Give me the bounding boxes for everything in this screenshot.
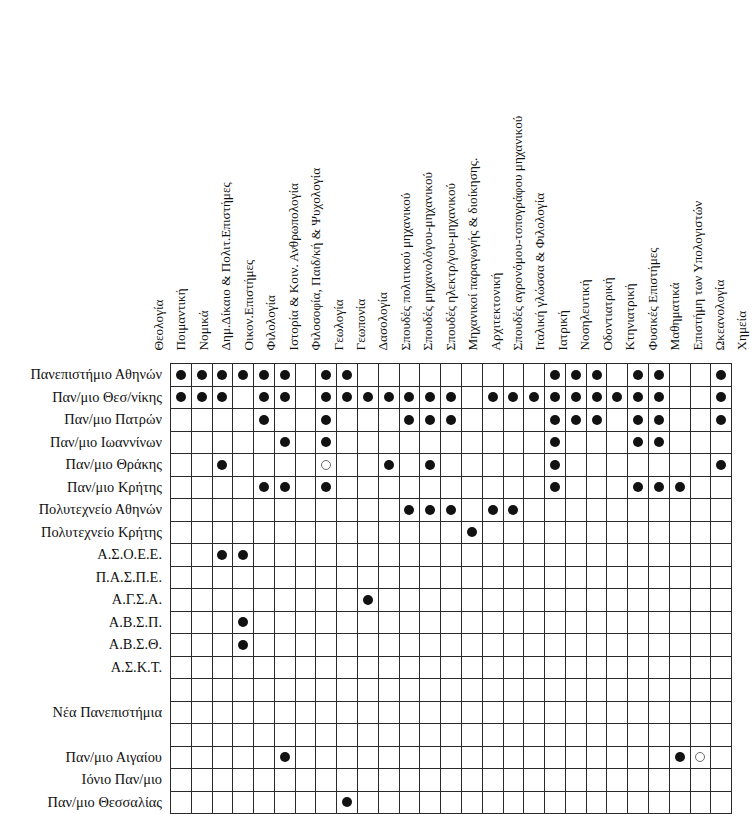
matrix-cell[interactable]: [275, 657, 296, 680]
matrix-cell[interactable]: [545, 769, 566, 792]
matrix-cell[interactable]: [441, 792, 462, 814]
matrix-cell[interactable]: [504, 657, 525, 680]
matrix-cell[interactable]: [337, 724, 358, 747]
matrix-cell[interactable]: [213, 432, 234, 455]
matrix-cell[interactable]: [504, 724, 525, 747]
matrix-cell[interactable]: [192, 477, 213, 500]
matrix-cell[interactable]: [504, 769, 525, 792]
matrix-cell[interactable]: [524, 634, 545, 657]
matrix-cell[interactable]: [545, 724, 566, 747]
matrix-cell[interactable]: [628, 724, 649, 747]
matrix-cell[interactable]: [296, 499, 317, 522]
matrix-cell[interactable]: [607, 657, 628, 680]
matrix-cell[interactable]: [587, 387, 608, 410]
matrix-cell[interactable]: [607, 679, 628, 702]
matrix-cell[interactable]: [233, 567, 254, 590]
matrix-cell[interactable]: [379, 567, 400, 590]
matrix-cell[interactable]: [711, 702, 732, 725]
matrix-cell[interactable]: [483, 792, 504, 814]
matrix-cell[interactable]: [691, 612, 712, 635]
matrix-cell[interactable]: [337, 364, 358, 387]
matrix-cell[interactable]: [213, 634, 234, 657]
matrix-cell[interactable]: [233, 544, 254, 567]
matrix-cell[interactable]: [462, 499, 483, 522]
matrix-cell[interactable]: [254, 589, 275, 612]
matrix-cell[interactable]: [379, 589, 400, 612]
matrix-cell[interactable]: [483, 567, 504, 590]
matrix-cell[interactable]: [483, 522, 504, 545]
matrix-cell[interactable]: [171, 477, 192, 500]
matrix-cell[interactable]: [213, 747, 234, 770]
matrix-cell[interactable]: [504, 522, 525, 545]
matrix-cell[interactable]: [213, 724, 234, 747]
matrix-cell[interactable]: [670, 747, 691, 770]
matrix-cell[interactable]: [316, 477, 337, 500]
matrix-cell[interactable]: [337, 522, 358, 545]
matrix-cell[interactable]: [462, 769, 483, 792]
matrix-cell[interactable]: [420, 364, 441, 387]
matrix-cell[interactable]: [691, 634, 712, 657]
matrix-cell[interactable]: [524, 792, 545, 814]
matrix-cell[interactable]: [670, 702, 691, 725]
matrix-cell[interactable]: [379, 454, 400, 477]
matrix-cell[interactable]: [296, 364, 317, 387]
matrix-cell[interactable]: [296, 522, 317, 545]
matrix-cell[interactable]: [483, 657, 504, 680]
matrix-cell[interactable]: [192, 544, 213, 567]
matrix-cell[interactable]: [192, 409, 213, 432]
matrix-cell[interactable]: [192, 657, 213, 680]
matrix-cell[interactable]: [254, 679, 275, 702]
matrix-cell[interactable]: [607, 769, 628, 792]
matrix-cell[interactable]: [379, 612, 400, 635]
matrix-cell[interactable]: [441, 387, 462, 410]
matrix-cell[interactable]: [171, 657, 192, 680]
matrix-cell[interactable]: [649, 364, 670, 387]
matrix-cell[interactable]: [670, 567, 691, 590]
matrix-cell[interactable]: [524, 657, 545, 680]
matrix-cell[interactable]: [171, 522, 192, 545]
matrix-cell[interactable]: [337, 477, 358, 500]
matrix-cell[interactable]: [379, 702, 400, 725]
matrix-cell[interactable]: [254, 387, 275, 410]
matrix-cell[interactable]: [711, 477, 732, 500]
matrix-cell[interactable]: [566, 454, 587, 477]
matrix-cell[interactable]: [566, 364, 587, 387]
matrix-cell[interactable]: [275, 634, 296, 657]
matrix-cell[interactable]: [316, 454, 337, 477]
matrix-cell[interactable]: [504, 567, 525, 590]
matrix-cell[interactable]: [587, 634, 608, 657]
matrix-cell[interactable]: [192, 499, 213, 522]
matrix-cell[interactable]: [192, 792, 213, 814]
matrix-cell[interactable]: [545, 612, 566, 635]
matrix-cell[interactable]: [400, 454, 421, 477]
matrix-cell[interactable]: [587, 589, 608, 612]
matrix-cell[interactable]: [337, 747, 358, 770]
matrix-cell[interactable]: [566, 679, 587, 702]
matrix-cell[interactable]: [275, 409, 296, 432]
matrix-cell[interactable]: [587, 612, 608, 635]
matrix-cell[interactable]: [587, 544, 608, 567]
matrix-cell[interactable]: [504, 634, 525, 657]
matrix-cell[interactable]: [379, 477, 400, 500]
matrix-cell[interactable]: [628, 454, 649, 477]
matrix-cell[interactable]: [400, 769, 421, 792]
matrix-cell[interactable]: [587, 409, 608, 432]
matrix-cell[interactable]: [254, 364, 275, 387]
matrix-cell[interactable]: [379, 499, 400, 522]
matrix-cell[interactable]: [441, 612, 462, 635]
matrix-cell[interactable]: [504, 454, 525, 477]
matrix-cell[interactable]: [504, 792, 525, 814]
matrix-cell[interactable]: [275, 702, 296, 725]
matrix-cell[interactable]: [670, 499, 691, 522]
matrix-cell[interactable]: [483, 634, 504, 657]
matrix-cell[interactable]: [587, 679, 608, 702]
matrix-cell[interactable]: [711, 454, 732, 477]
matrix-cell[interactable]: [483, 499, 504, 522]
matrix-cell[interactable]: [275, 477, 296, 500]
matrix-cell[interactable]: [213, 657, 234, 680]
matrix-cell[interactable]: [711, 544, 732, 567]
matrix-cell[interactable]: [379, 522, 400, 545]
matrix-cell[interactable]: [254, 432, 275, 455]
matrix-cell[interactable]: [711, 499, 732, 522]
matrix-cell[interactable]: [670, 409, 691, 432]
